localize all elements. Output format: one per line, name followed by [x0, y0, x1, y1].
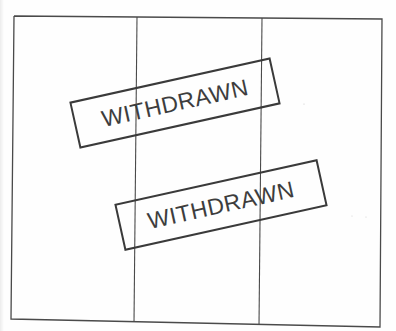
table-cell-1: [16, 20, 134, 318]
table-column-divider-1: [134, 17, 137, 322]
scanned-page: WITHDRAWN WITHDRAWN: [0, 0, 396, 331]
